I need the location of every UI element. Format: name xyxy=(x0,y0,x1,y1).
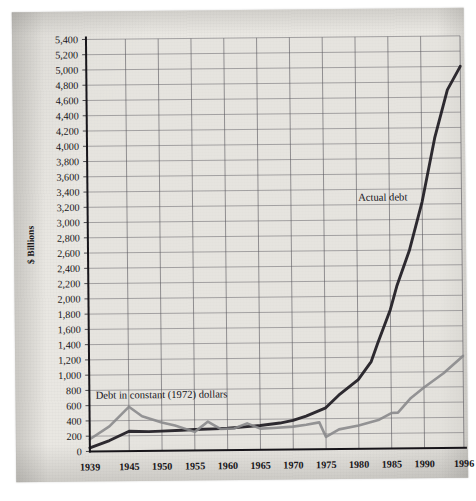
y-tick-label: 5,400 xyxy=(55,34,78,45)
scanned-chart-page: 02004006008001,0001,2001,4001,6001,8002,… xyxy=(0,0,476,501)
y-tick-label: 3,400 xyxy=(56,187,79,198)
x-tick-label: 1970 xyxy=(283,459,303,470)
y-tick-label: 4,600 xyxy=(56,95,79,106)
y-axis-tick-labels: 02004006008001,0001,2001,4001,6001,8002,… xyxy=(55,34,82,457)
x-tick-label: 1965 xyxy=(250,460,270,471)
x-tick-label: 1955 xyxy=(185,460,205,471)
y-tick-label: 3,200 xyxy=(57,202,80,213)
x-tick-label: 1960 xyxy=(218,460,238,471)
y-tick-label: 5,000 xyxy=(55,65,78,76)
y-tick-label: 1,200 xyxy=(58,355,81,366)
x-tick-label: 1980 xyxy=(349,459,369,470)
y-tick-label: 2,200 xyxy=(57,278,80,289)
x-tick-label: 1975 xyxy=(316,459,336,470)
y-tick-label: 400 xyxy=(66,416,81,427)
y-tick-label: 3,800 xyxy=(56,156,79,167)
x-tick-label: 1990 xyxy=(414,458,434,469)
y-tick-label: 200 xyxy=(66,431,81,442)
y-tick-label: 2,800 xyxy=(57,232,80,243)
y-tick-label: 1,000 xyxy=(58,370,81,381)
x-axis-tick-labels: 1939194519501955196019651970197519801985… xyxy=(80,458,474,473)
y-tick-label: 4,200 xyxy=(56,126,79,137)
y-tick-label: 0 xyxy=(77,446,82,457)
y-axis-title: $ Billions xyxy=(25,226,36,264)
y-tick-label: 4,800 xyxy=(55,80,78,91)
debt-line-chart: 02004006008001,0001,2001,4001,6001,8002,… xyxy=(0,0,476,501)
x-tick-label: 1950 xyxy=(152,461,172,472)
y-tick-label: 1,600 xyxy=(58,324,81,335)
x-tick-label: 1996 xyxy=(454,458,474,469)
y-tick-label: 4,400 xyxy=(56,110,79,121)
y-tick-label: 2,000 xyxy=(57,294,80,305)
y-tick-label: 800 xyxy=(66,385,81,396)
y-tick-label: 1,800 xyxy=(58,309,81,320)
series-annotation-1: Actual debt xyxy=(358,191,407,202)
y-tick-label: 5,200 xyxy=(55,49,78,60)
y-tick-label: 3,600 xyxy=(56,171,79,182)
y-tick-label: 3,000 xyxy=(57,217,80,228)
y-tick-label: 2,400 xyxy=(57,263,80,274)
x-tick-label: 1945 xyxy=(119,461,139,472)
y-tick-label: 2,600 xyxy=(57,248,80,259)
y-tick-label: 1,400 xyxy=(58,339,81,350)
y-tick-label: 4,000 xyxy=(56,141,79,152)
y-tick-label: 600 xyxy=(66,400,81,411)
x-tick-label: 1939 xyxy=(80,461,100,472)
x-tick-label: 1985 xyxy=(382,458,402,469)
